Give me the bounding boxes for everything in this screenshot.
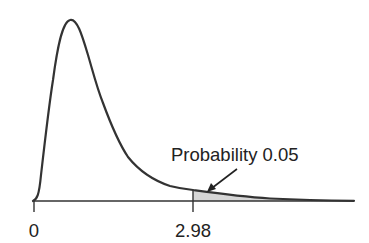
arrow-head-icon bbox=[207, 183, 216, 192]
annotation-label: Probability 0.05 bbox=[171, 144, 299, 165]
tick-label-critical: 2.98 bbox=[175, 220, 211, 241]
f-distribution-chart: Probability 0.05 0 2.98 bbox=[0, 0, 369, 243]
annotation-arrow bbox=[212, 169, 237, 188]
density-curve bbox=[33, 20, 354, 201]
tick-label-zero: 0 bbox=[29, 220, 39, 241]
